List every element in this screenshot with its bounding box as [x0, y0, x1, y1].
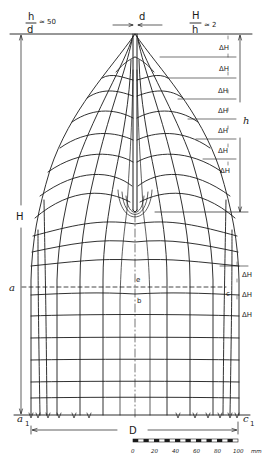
svg-text:h: h	[28, 11, 34, 22]
svg-text:mm: mm	[251, 448, 262, 454]
point-labels: a e b c	[9, 276, 230, 305]
svg-text:ΔH: ΔH	[218, 87, 228, 95]
svg-text:1: 1	[25, 420, 29, 428]
svg-text:D: D	[129, 425, 137, 436]
ratio-H-over-h: H h ≈ 2	[190, 10, 217, 35]
scale-bar: 0 20 40 60 80 100 mm	[131, 439, 262, 454]
svg-text:ΔH: ΔH	[218, 107, 228, 115]
flow-net-figure: h d ≈ 50 H h ≈ 2 d H h	[0, 0, 269, 462]
svg-text:h: h	[243, 115, 249, 126]
flow-net-grid	[31, 34, 239, 415]
dimension-h: h	[155, 35, 249, 212]
svg-text:ΔH: ΔH	[218, 127, 228, 135]
svg-text:ΔH: ΔH	[219, 44, 229, 52]
svg-text:20: 20	[151, 448, 158, 454]
svg-text:40: 40	[172, 448, 179, 454]
svg-text:d: d	[27, 24, 33, 35]
svg-text:0: 0	[131, 448, 135, 454]
svg-text:ΔH: ΔH	[219, 65, 229, 73]
svg-text:1: 1	[250, 420, 254, 428]
dimension-D: D	[31, 422, 238, 436]
svg-text:b: b	[137, 297, 142, 305]
outflow-arrows	[29, 413, 239, 418]
svg-text:d: d	[139, 11, 145, 22]
ratio-h-over-d: h d ≈ 50	[26, 11, 56, 35]
svg-text:e: e	[136, 276, 140, 284]
svg-text:≈ 2: ≈ 2	[204, 21, 217, 29]
svg-text:a: a	[9, 282, 15, 293]
svg-text:ΔH: ΔH	[242, 291, 252, 299]
svg-text:80: 80	[214, 448, 221, 454]
svg-text:ΔH: ΔH	[218, 147, 228, 155]
svg-text:H: H	[192, 10, 200, 21]
svg-text:c: c	[243, 413, 249, 424]
dimension-H: H	[16, 35, 24, 414]
svg-text:ΔH: ΔH	[242, 311, 252, 319]
dimension-d: d	[113, 11, 162, 27]
svg-text:100: 100	[233, 448, 244, 454]
svg-text:H: H	[16, 211, 24, 222]
svg-text:≈ 50: ≈ 50	[39, 18, 56, 26]
svg-text:a: a	[17, 413, 23, 424]
svg-text:h: h	[192, 24, 198, 35]
svg-text:c: c	[226, 290, 230, 298]
svg-text:60: 60	[193, 448, 200, 454]
svg-text:ΔH: ΔH	[242, 271, 252, 279]
